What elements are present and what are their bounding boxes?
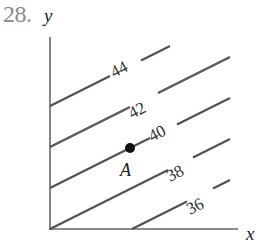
contour-36: 36 [132,180,230,229]
contour-label-42: 42 [125,98,149,123]
x-axis-label: x [245,223,255,244]
contour-42: 42 [50,57,230,147]
contour-map: y x 44 42 40 38 36 [0,0,259,250]
contour-label-40: 40 [145,121,169,146]
contour-map-figure: 28. y x 44 42 40 38 [0,0,259,250]
contour-38: 38 [50,139,230,229]
contour-label-36: 36 [183,194,207,219]
contour-44: 44 [50,46,170,106]
point-a-label: A [119,160,132,180]
y-axis-label: y [42,5,53,26]
point-a-marker [125,143,135,153]
contour-label-38: 38 [163,161,187,186]
contour-label-44: 44 [107,57,131,82]
